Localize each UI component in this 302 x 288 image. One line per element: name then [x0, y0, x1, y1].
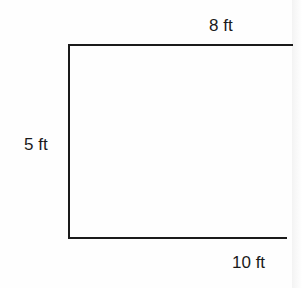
top-side-line — [69, 44, 293, 46]
left-side-line — [68, 44, 70, 239]
diagram-canvas: 8 ft 5 ft 10 ft — [0, 0, 302, 288]
top-dimension-label: 8 ft — [209, 17, 233, 34]
bottom-dimension-label: 10 ft — [232, 254, 265, 271]
page-edge — [292, 0, 302, 288]
left-dimension-label: 5 ft — [24, 136, 48, 153]
bottom-side-line — [69, 237, 287, 239]
